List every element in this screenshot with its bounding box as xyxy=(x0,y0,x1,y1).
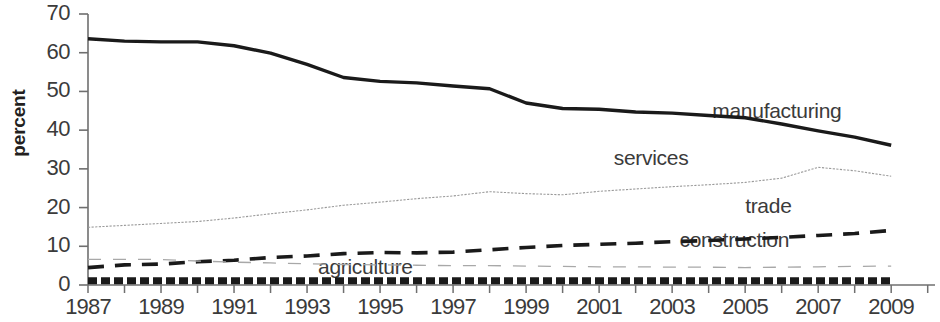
series-line-trade xyxy=(88,230,891,267)
series-line-services xyxy=(88,167,891,227)
plot-area xyxy=(0,0,940,322)
line-chart: percent 010203040506070 1987198919911993… xyxy=(0,0,940,322)
series-line-manufacturing xyxy=(88,39,891,145)
